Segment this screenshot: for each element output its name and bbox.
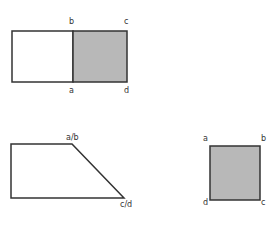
label-d: d	[124, 86, 129, 95]
diagram-canvas: b c a d a/b c/d a b d c	[0, 0, 275, 225]
label-cd: c/d	[120, 200, 132, 209]
label-a: a	[69, 86, 74, 95]
square: a b d c	[203, 134, 266, 207]
trapezoid: a/b c/d	[11, 133, 132, 209]
label-c: c	[261, 198, 265, 207]
trapezoid-shape	[11, 144, 124, 198]
label-ab: a/b	[66, 133, 79, 142]
label-a: a	[203, 134, 208, 143]
square-shape	[210, 146, 260, 200]
label-b: b	[69, 17, 74, 26]
shaded-half	[73, 31, 127, 82]
label-c: c	[124, 17, 128, 26]
unshaded-half	[12, 31, 73, 82]
label-d: d	[203, 198, 208, 207]
top-rectangle: b c a d	[12, 17, 129, 95]
label-b: b	[261, 134, 266, 143]
